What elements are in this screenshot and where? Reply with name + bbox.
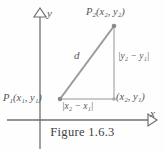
point-p2-label: P2(x₂, y₂) — [86, 7, 125, 19]
y-axis-label: y — [47, 8, 52, 19]
figure-caption: Figure 1.6.3 — [0, 125, 165, 140]
point-p2-label-coords: (x₂, y₂) — [96, 6, 125, 17]
point-p1-label: P1(x₁, y₁) — [3, 93, 42, 105]
point-p1-label-coords: (x₁, y₁) — [13, 92, 42, 103]
point-corner-label: (x₂, y₁) — [116, 92, 145, 103]
y-axis-arrowhead-icon — [34, 8, 46, 17]
hypotenuse-label: d — [74, 50, 80, 61]
x-axis-label: x — [150, 108, 155, 119]
horizontal-leg-label: |x₂ − x₁| — [62, 102, 93, 112]
distance-formula-figure: y x P2(x₂, y₂) P1(x₁, y₁) (x₂, y₁) d |y₂… — [0, 0, 165, 153]
vertical-leg-label: |y₂ − y₁| — [118, 52, 149, 62]
point-p2-dot — [112, 24, 117, 29]
hypotenuse-segment — [60, 26, 114, 99]
